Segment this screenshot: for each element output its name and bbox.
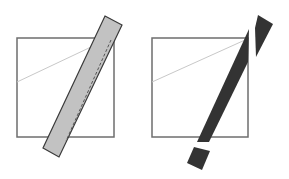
- right-top-fragment: [255, 15, 273, 57]
- diagram-svg: [0, 0, 289, 179]
- right-main-fragment: [197, 29, 249, 142]
- right-bottom-fragment: [187, 147, 210, 170]
- left-gray-bar: [43, 16, 122, 157]
- diagram-canvas: [0, 0, 289, 179]
- left-panel: [17, 16, 122, 157]
- right-panel: [152, 15, 273, 170]
